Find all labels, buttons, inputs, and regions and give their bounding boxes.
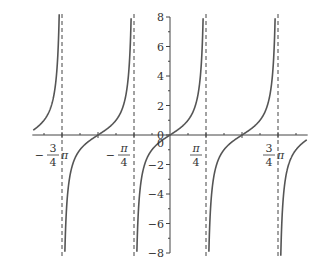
numerator: 3	[50, 142, 57, 155]
y-tick-label: −4	[148, 188, 164, 201]
x-tick-label: −34π	[35, 142, 69, 169]
tan-branch	[33, 14, 59, 130]
y-tick-label: 2	[157, 100, 164, 113]
y-tick-label: 8	[157, 11, 164, 24]
denominator: 4	[121, 156, 128, 169]
minus-sign: −	[35, 149, 44, 162]
denominator: 4	[193, 156, 200, 169]
numerator: 3	[266, 142, 273, 155]
x-tick-label: 34π	[263, 142, 285, 169]
minus-sign: −	[106, 149, 115, 162]
denominator: 4	[266, 156, 273, 169]
tan-branch	[281, 140, 307, 256]
pi-symbol: π	[60, 149, 69, 162]
x-tick-label-zero: 0	[157, 137, 164, 150]
x-tick-label: π4	[190, 142, 202, 169]
pi-symbol: π	[276, 149, 285, 162]
x-tick-label: −π4	[106, 142, 130, 169]
numerator: π	[119, 142, 128, 155]
y-tick-label: 4	[157, 70, 164, 83]
y-tick-label: −2	[148, 159, 164, 172]
y-tick-label: −6	[148, 218, 164, 231]
y-tick-label: 6	[157, 41, 164, 54]
numerator: π	[191, 142, 200, 155]
y-tick-label: −8	[148, 247, 164, 260]
tan-2x-plot: −8−6−4−202468−34π−π40π434π	[0, 0, 325, 270]
denominator: 4	[50, 156, 57, 169]
